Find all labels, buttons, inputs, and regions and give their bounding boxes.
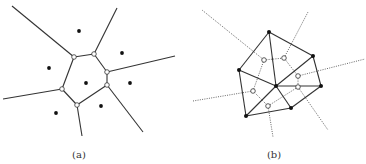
voronoi-ray	[12, 6, 74, 57]
voronoi-ray	[107, 85, 143, 132]
voronoi-vertex	[296, 74, 301, 79]
voronoi-edge	[77, 85, 107, 105]
diagram-canvas	[0, 0, 366, 164]
site-point	[267, 30, 271, 34]
site-point	[237, 68, 241, 72]
voronoi-vertex	[105, 70, 110, 75]
delaunay-edge	[313, 56, 321, 86]
voronoi-edge-dotted	[253, 60, 264, 91]
site-point	[47, 66, 51, 70]
site-point	[120, 51, 124, 55]
delaunay-edge	[239, 70, 276, 86]
panel-a-caption: (a)	[72, 149, 86, 160]
site-point	[289, 106, 293, 110]
voronoi-vertex	[266, 104, 271, 109]
voronoi-ray	[94, 8, 117, 54]
panel-a-voronoi-diagram	[3, 6, 175, 136]
site-point	[54, 111, 58, 115]
voronoi-vertex	[296, 85, 301, 90]
voronoi-vertex	[60, 87, 65, 92]
voronoi-vertex	[282, 56, 287, 61]
voronoi-edge-dotted	[253, 91, 268, 106]
voronoi-ray-dotted	[202, 10, 264, 60]
delaunay-edge	[276, 86, 291, 108]
voronoi-vertex	[92, 52, 97, 57]
site-point	[84, 81, 88, 85]
site-point	[274, 84, 278, 88]
site-point	[99, 104, 103, 108]
voronoi-ray	[107, 56, 175, 72]
voronoi-vertex	[75, 103, 80, 108]
voronoi-edge	[62, 57, 74, 89]
delaunay-edge	[269, 32, 313, 56]
delaunay-edge	[276, 56, 313, 86]
voronoi-vertex	[251, 89, 256, 94]
voronoi-ray	[77, 105, 82, 136]
voronoi-ray-dotted	[298, 87, 328, 130]
delaunay-edge	[239, 70, 246, 116]
voronoi-ray-dotted	[268, 106, 273, 137]
voronoi-edge	[94, 54, 107, 72]
voronoi-vertex	[105, 83, 110, 88]
delaunay-edge	[291, 86, 321, 108]
voronoi-vertex	[72, 55, 77, 60]
site-point	[128, 81, 132, 85]
voronoi-edge	[62, 89, 77, 105]
site-point	[244, 114, 248, 118]
site-point	[311, 54, 315, 58]
site-point	[77, 29, 81, 33]
delaunay-edge	[239, 32, 269, 70]
voronoi-vertex	[262, 58, 267, 63]
voronoi-ray-dotted	[298, 59, 365, 76]
panel-b-caption: (b)	[267, 149, 281, 160]
voronoi-edge-dotted	[264, 58, 284, 60]
voronoi-edge	[74, 54, 94, 57]
voronoi-ray	[3, 89, 62, 99]
delaunay-edge	[269, 32, 276, 86]
panel-b-delaunay-triangulation	[193, 10, 365, 137]
site-point	[319, 84, 323, 88]
